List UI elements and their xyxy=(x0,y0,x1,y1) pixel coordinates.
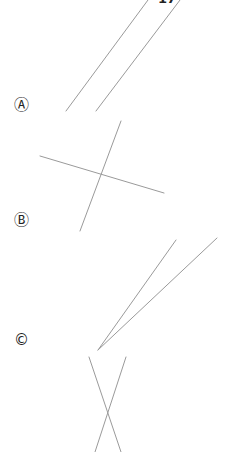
line-b2 xyxy=(40,156,164,193)
option-label-b: Ⓑ xyxy=(14,213,29,228)
line-a1 xyxy=(66,0,148,111)
option-label-c: © xyxy=(14,333,29,348)
figure-d-x-lines xyxy=(89,357,126,452)
line-c1 xyxy=(98,240,176,350)
line-a2 xyxy=(96,0,180,111)
figure-a-parallel-lines xyxy=(66,0,180,111)
geometry-figures xyxy=(0,0,226,452)
figure-b-intersecting-lines xyxy=(40,121,164,231)
line-c2 xyxy=(98,238,217,350)
line-b1 xyxy=(80,121,121,231)
option-label-a: Ⓐ xyxy=(14,98,29,113)
figure-c-angle xyxy=(98,238,217,350)
line-d1 xyxy=(89,357,121,452)
line-d2 xyxy=(95,357,126,452)
